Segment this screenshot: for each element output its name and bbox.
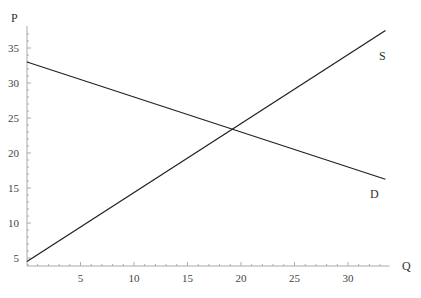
y-tick-label: 30 [8,77,20,89]
y-tick-label: 15 [8,182,20,194]
demand-curve [27,62,385,179]
x-tick-label: 30 [343,272,355,284]
x-axis-title: Q [402,259,411,273]
y-tick-label: 5 [14,252,20,264]
y-axis-title: P [11,11,18,25]
y-tick-label: 35 [8,42,20,54]
y-tick-label: 20 [8,147,20,159]
x-tick-label: 15 [182,272,194,284]
x-tick-label: 5 [78,272,84,284]
demand-label: D [370,187,379,201]
x-tick-label: 25 [289,272,301,284]
curves [27,31,385,262]
supply-curve [27,31,385,262]
y-tick-label: 10 [8,217,20,229]
supply-label: S [379,49,386,63]
supply-demand-chart: 510152025305101520253035 P Q S D [0,0,421,298]
x-tick-label: 10 [129,272,141,284]
x-tick-label: 20 [236,272,248,284]
y-tick-label: 25 [8,112,20,124]
